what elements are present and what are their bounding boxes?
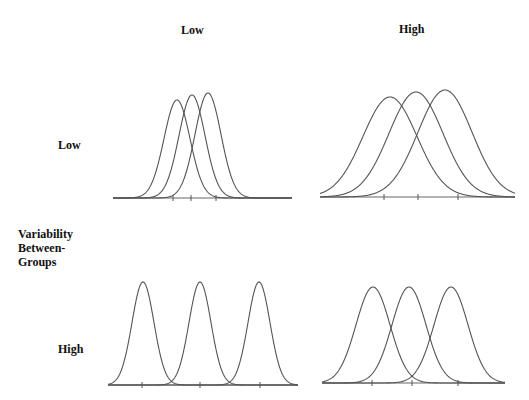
normal-curve <box>322 287 505 383</box>
normal-curve <box>320 92 515 197</box>
panel-low-between-high-within <box>320 90 515 200</box>
normal-curve <box>320 90 515 197</box>
normal-curve <box>113 93 292 198</box>
normal-curve <box>322 287 505 383</box>
normal-curve <box>320 97 515 197</box>
normal-curve <box>322 287 505 383</box>
distribution-panels <box>0 0 529 400</box>
panel-high-between-high-within <box>322 287 505 386</box>
normal-curve <box>113 100 292 198</box>
panel-low-between-low-within <box>113 93 292 201</box>
panel-high-between-low-within <box>108 282 298 388</box>
normal-curve <box>108 282 298 385</box>
